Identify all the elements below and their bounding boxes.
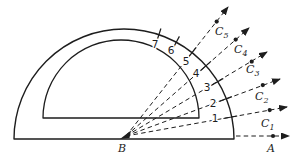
figure-canvas: 1 2 3 4 5 6 7 C1 C2 C3 C4 C5 B A — [0, 0, 301, 164]
point-c1 — [268, 108, 272, 112]
point-c5 — [215, 20, 219, 24]
label-c2: C2 — [255, 90, 269, 105]
point-c2 — [261, 83, 265, 87]
label-c5: C5 — [215, 25, 229, 40]
scale-label-6: 6 — [168, 44, 175, 56]
label-c4-subscript: 4 — [241, 49, 247, 58]
label-c5-subscript: 5 — [223, 31, 228, 40]
label-c3: C3 — [246, 63, 260, 78]
point-a — [271, 134, 275, 138]
scale-label-1: 1 — [212, 112, 219, 124]
label-b: B — [117, 142, 126, 155]
label-c1-subscript: 1 — [269, 123, 274, 132]
protractor-angle-diagram: 1 2 3 4 5 6 7 C1 C2 C3 C4 C5 B A — [0, 0, 301, 164]
scale-label-5: 5 — [183, 55, 190, 67]
label-c1: C1 — [261, 117, 275, 132]
scale-label-2: 2 — [210, 97, 217, 109]
scale-label-4: 4 — [193, 67, 200, 79]
label-c4: C4 — [234, 43, 248, 58]
scale-label-3: 3 — [204, 81, 211, 93]
label-c2-subscript: 2 — [262, 96, 268, 105]
label-a: A — [266, 142, 275, 155]
point-c4 — [234, 38, 238, 42]
label-c3-subscript: 3 — [254, 69, 259, 78]
scale-label-7: 7 — [152, 38, 159, 50]
